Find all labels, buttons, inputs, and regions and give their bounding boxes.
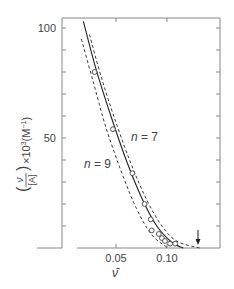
data-point bbox=[111, 127, 116, 132]
data-point bbox=[92, 70, 97, 75]
svg-text:ν̄: ν̄ bbox=[15, 176, 25, 183]
data-point bbox=[148, 217, 153, 222]
data-point bbox=[173, 241, 178, 246]
svg-text:×103(M−1): ×103(M−1) bbox=[20, 117, 32, 164]
label-n7: n = 7 bbox=[131, 130, 158, 144]
data-point bbox=[163, 239, 168, 244]
paren-close: ) bbox=[14, 166, 31, 171]
x-axis-label: ν̄ bbox=[112, 266, 120, 280]
label-n9: n = 9 bbox=[84, 157, 111, 171]
x-tick-label: 0.05 bbox=[105, 252, 126, 264]
data-point bbox=[130, 171, 135, 176]
paren-open: ( bbox=[14, 186, 31, 192]
y-axis-label: ( ν̄ [A] ) ×103(M−1) bbox=[14, 117, 37, 192]
data-point bbox=[156, 232, 161, 237]
chart-canvas: 501000.050.10 n = 7 n = 9 ν̄ ( ν̄ [A] ) … bbox=[0, 0, 234, 289]
data-point bbox=[168, 241, 173, 246]
y-tick-label: 100 bbox=[38, 22, 56, 34]
data-point bbox=[142, 202, 147, 207]
data-point bbox=[149, 228, 154, 233]
x-tick-label: 0.10 bbox=[156, 252, 177, 264]
arrow-icon bbox=[196, 230, 201, 245]
y-tick-label: 50 bbox=[44, 132, 56, 144]
svg-text:[A]: [A] bbox=[27, 174, 37, 185]
plot-frame bbox=[37, 18, 220, 248]
